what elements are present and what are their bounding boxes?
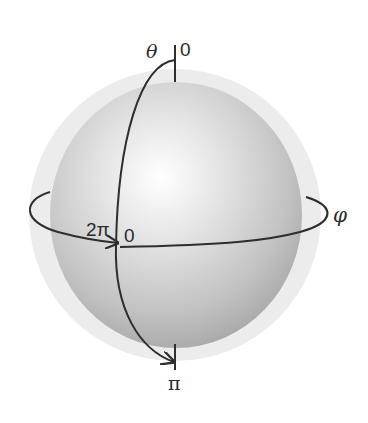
phi-label: φ	[333, 203, 347, 227]
phi-start-label: 0	[124, 225, 135, 246]
sphere-coordinate-diagram: θ 0 φ 2π 0 π	[0, 0, 368, 423]
theta-end-label: π	[168, 372, 181, 394]
theta-label: θ	[146, 40, 158, 62]
theta-start-label: 0	[180, 39, 191, 60]
phi-end-label: 2π	[86, 219, 110, 240]
sphere	[50, 82, 302, 348]
